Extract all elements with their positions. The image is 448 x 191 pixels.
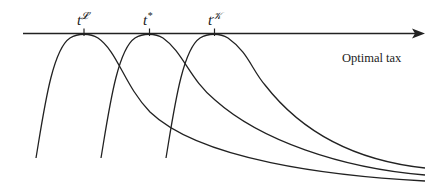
optimal-tax-diagram: t𝓛 t* t𝒦 Optimal tax	[0, 0, 448, 191]
axis-label: Optimal tax	[342, 51, 402, 65]
tick-label-tK: t𝒦	[208, 10, 225, 28]
tick-label-tL: t𝓛	[77, 10, 91, 28]
tick-label-tstar: t*	[143, 10, 152, 28]
